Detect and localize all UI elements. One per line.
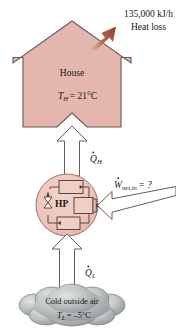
work-input-dot-icon [117, 177, 119, 179]
q-low-label: QL [85, 268, 96, 279]
q-high-label: QH [90, 154, 103, 165]
q-low-subscript: L [91, 272, 96, 279]
heat-loss-rate-label: 135,000 kJ/h [124, 9, 173, 19]
q-high-arrow [57, 126, 87, 176]
house-temp-value: = 21°C [70, 91, 97, 101]
heat-pump-group: HP [36, 174, 100, 236]
condenser-box [59, 181, 83, 194]
work-input-subscript: net,in [122, 184, 138, 191]
work-input-value: = ? [138, 180, 152, 190]
work-input-group: Wnet,in= ? [98, 177, 177, 219]
house-label: House [60, 68, 84, 78]
outside-air-temp-value: = –5°C [67, 311, 92, 320]
heat-pump-diagram: House TH= 21°C 135,000 kJ/h Heat loss QH [0, 0, 176, 334]
outside-air-group: Cold outside air TL= –5°C [19, 284, 125, 326]
q-high-group: QH [57, 126, 103, 176]
q-low-dot-icon [87, 266, 89, 268]
compressor-icon [74, 198, 100, 214]
work-input-label: Wnet,in= ? [114, 180, 152, 191]
heat-loss-caption: Heat loss [131, 22, 166, 32]
outside-air-temp-subscript: L [61, 314, 66, 321]
diagram-canvas: House TH= 21°C 135,000 kJ/h Heat loss QH [0, 0, 176, 334]
q-high-subscript: H [96, 158, 103, 165]
heat-pump-label: HP [55, 199, 68, 209]
outside-air-label: Cold outside air [45, 297, 99, 306]
work-input-arrow [98, 187, 177, 220]
q-high-dot-icon [92, 152, 94, 154]
